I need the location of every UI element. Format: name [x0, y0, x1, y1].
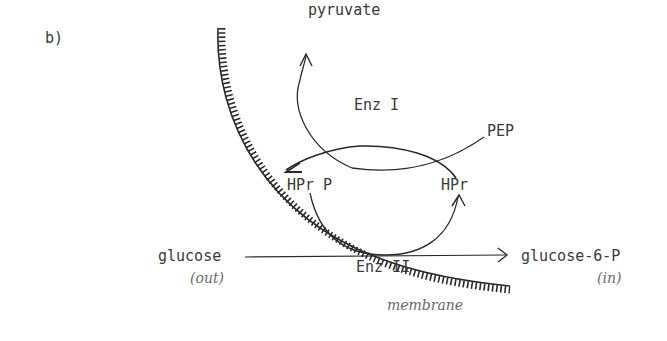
pep-label: PEP: [487, 124, 514, 139]
hpr-p-label: HPr P: [287, 178, 332, 193]
in-label: (in): [597, 271, 621, 285]
hpr-label: HPr: [441, 178, 468, 193]
enz2-loop: [310, 193, 465, 255]
glucose-6-p-label: glucose-6-P: [521, 249, 620, 264]
out-label: (out): [190, 271, 224, 285]
enz2-label: Enz II: [356, 260, 410, 275]
panel-label: b): [45, 31, 63, 46]
glucose-label: glucose: [158, 249, 221, 264]
pyruvate-label: pyruvate: [308, 3, 380, 18]
hpr-to-hprp-arc: [286, 146, 456, 178]
enz1-label: Enz I: [354, 98, 399, 113]
diagram-lines: [0, 0, 667, 341]
membrane-curve: [218, 28, 510, 290]
membrane-label: membrane: [387, 298, 463, 312]
pts-diagram: b) pyruvate Enz I PEP HPr P HPr glucose …: [0, 0, 667, 341]
